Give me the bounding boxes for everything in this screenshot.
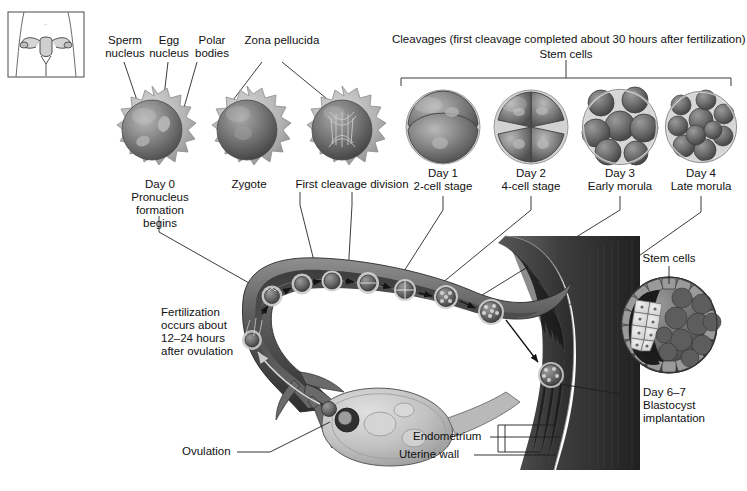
ovulation-leader-line	[237, 422, 330, 452]
female-pelvis-inset: ⌐	[8, 12, 84, 77]
label-first-cleavage-division: First cleavage division	[290, 178, 414, 191]
embryo-4cell-tube	[394, 279, 416, 301]
label-fertilization: Fertilization occurs about 12–24 hours a…	[161, 306, 257, 358]
cell-day1-2cell	[406, 90, 480, 164]
embryo-zygote-tube	[292, 274, 313, 295]
cell-day0-pronucleus	[117, 86, 196, 165]
embryo-late-morula-tube	[478, 299, 504, 325]
label-egg-nucleus: Egg nucleus	[144, 34, 194, 60]
label-zygote: Zygote	[222, 178, 276, 191]
diagram-artwork: ⌐	[0, 0, 747, 491]
cell-day3-early-morula	[582, 87, 658, 165]
label-uterine-wall: Uterine wall	[399, 448, 459, 461]
label-blastocyst-implantation: Day 6–7 Blastocyst implantation	[643, 386, 739, 425]
label-zona-pellucida: Zona pellucida	[228, 34, 336, 47]
cleavages-bracket	[401, 60, 731, 86]
uterine-wall-structure	[498, 236, 640, 470]
label-day3: Day 3 Early morula	[574, 167, 666, 193]
figure-canvas: ⌐	[0, 0, 747, 491]
label-cleavages: Cleavages (first cleavage completed abou…	[392, 33, 740, 46]
label-day2: Day 2 4-cell stage	[488, 167, 574, 193]
label-day0: Day 0 Pronucleus formation begins	[120, 178, 200, 230]
label-stem-cells-right: Stem cells	[629, 252, 709, 265]
label-stem-cells-top: Stem cells	[522, 48, 610, 61]
embryo-fertilized	[262, 286, 283, 307]
cell-zygote	[212, 86, 291, 165]
label-endometrium: Endometrium	[413, 430, 481, 443]
svg-text:⌐: ⌐	[45, 21, 48, 27]
blastocyst-cross-section	[621, 277, 721, 373]
cell-first-cleavage-division	[307, 86, 386, 165]
cell-day4-late-morula	[665, 90, 736, 163]
label-day1: Day 1 2-cell stage	[400, 167, 486, 193]
embryo-cleaving-tube	[322, 271, 343, 292]
embryo-2cell-tube	[357, 272, 379, 294]
label-ovulation: Ovulation	[182, 445, 231, 458]
cell-day2-4cell	[494, 90, 568, 164]
label-day4: Day 4 Late morula	[656, 167, 746, 193]
embryo-morula-tube	[434, 285, 458, 309]
